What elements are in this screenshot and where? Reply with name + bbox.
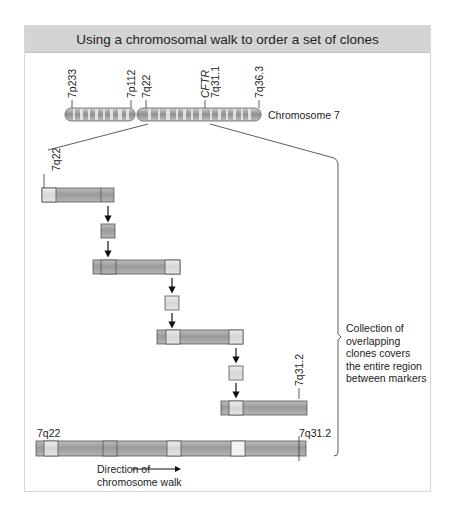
contig-start-label: 7q22 [37, 427, 61, 439]
chromosome-7-ideogram [65, 100, 261, 121]
clone-3 [157, 330, 243, 344]
chromosome-marker-labels: 7p233 7p112 7q22 CFTR 7q31.1 7q36.3 [66, 66, 265, 98]
marker-7q31-1: 7q31.1 [209, 66, 221, 98]
contig-end-label: 7q31.2 [299, 427, 331, 439]
direction-label: Direction of chromosome walk [97, 463, 182, 488]
clone-4 [221, 388, 307, 415]
end-probe-3 [229, 366, 243, 380]
marker-7q36-3: 7q36.3 [253, 66, 265, 98]
end-probe-1 [101, 224, 115, 238]
clone-start-marker: 7q22 [50, 147, 62, 171]
marker-7q22: 7q22 [140, 74, 152, 98]
end-probe-2 [165, 296, 179, 310]
marker-7p112: 7p112 [125, 69, 137, 98]
clone-end-marker: 7q31.2 [293, 354, 305, 386]
chromosome-label: Chromosome 7 [268, 109, 340, 121]
clone-2 [93, 260, 180, 274]
marker-7p233: 7p233 [66, 69, 78, 98]
clone-1 [42, 174, 114, 202]
overlap-annotation: Collection of overlapping clones covers … [346, 322, 427, 385]
contig-bar [36, 436, 306, 461]
chromosome-walk-diagram: 7p233 7p112 7q22 CFTR 7q31.1 7q36.3 Chro… [0, 0, 455, 518]
